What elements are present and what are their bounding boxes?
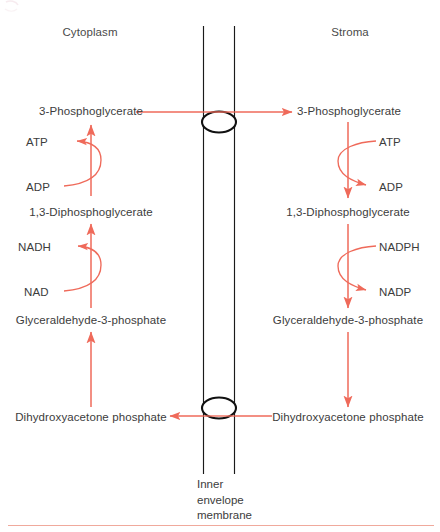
membrane-caption: Inner envelope membrane xyxy=(197,477,252,524)
stroma-cofactor-atp: ATP xyxy=(379,135,401,149)
cytoplasm-cofactor-atp: ATP xyxy=(26,135,48,149)
membrane-caption-line-1: Inner xyxy=(197,477,252,493)
cytoplasm-metabolite-3-phosphoglycerate: 3-Phosphoglycerate xyxy=(11,104,171,118)
membrane-caption-line-2: envelope xyxy=(197,493,252,509)
cytoplasm-metabolite-1-3-diphosphoglycerate: 1,3-Diphosphoglycerate xyxy=(8,205,174,219)
stroma-metabolite-glyceraldehyde-3-phosphate: Glyceraldehyde-3-phosphate xyxy=(262,313,434,327)
region-label-stroma: Stroma xyxy=(300,25,400,39)
cytoplasm-cofactor-adp: ADP xyxy=(26,180,50,194)
cytoplasm-cofactor-nadh: NADH xyxy=(18,240,51,254)
stroma-metabolite-1-3-diphosphoglycerate: 1,3-Diphosphoglycerate xyxy=(265,205,431,219)
scan-artifact xyxy=(5,1,18,11)
translocator-pore-upper-icon xyxy=(202,112,236,133)
cytoplasm-cofactor-nad: NAD xyxy=(24,285,49,299)
cytoplasm-metabolite-dihydroxyacetone-phosphate: Dihydroxyacetone phosphate xyxy=(3,410,179,424)
membrane-caption-line-3: membrane xyxy=(197,508,252,524)
stroma-cofactor-adp: ADP xyxy=(379,180,403,194)
stroma-metabolite-dihydroxyacetone-phosphate: Dihydroxyacetone phosphate xyxy=(260,410,436,424)
region-label-cytoplasm: Cytoplasm xyxy=(40,25,140,39)
pathway-diagram: Cytoplasm Stroma 3-Phosphoglycerate 1,3-… xyxy=(0,0,440,532)
diagram-canvas xyxy=(0,0,440,532)
stroma-metabolite-3-phosphoglycerate: 3-Phosphoglycerate xyxy=(297,104,401,118)
cytoplasm-nad-nadh-curve xyxy=(64,246,101,291)
stroma-atp-adp-curve xyxy=(338,141,376,185)
stroma-cofactor-nadph: NADPH xyxy=(379,240,420,254)
stroma-cofactor-nadp: NADP xyxy=(379,285,411,299)
cytoplasm-atp-adp-curve xyxy=(64,141,101,186)
stroma-nadph-nadp-curve xyxy=(338,246,376,290)
cytoplasm-metabolite-glyceraldehyde-3-phosphate: Glyceraldehyde-3-phosphate xyxy=(5,313,177,327)
